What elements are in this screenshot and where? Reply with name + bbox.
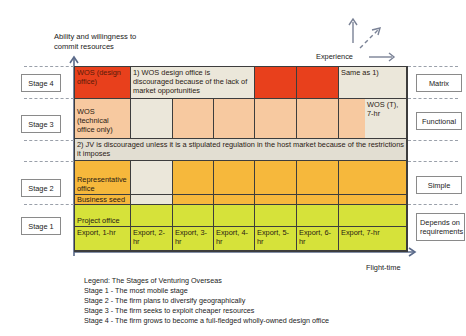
- legend-item: Stage 4 - The firm grows to become a ful…: [84, 316, 329, 326]
- cell-gray: [131, 99, 173, 139]
- cell-gray: [131, 195, 173, 205]
- cell-orange: [297, 161, 339, 195]
- cell-lime: [173, 205, 214, 227]
- cell-lime: [214, 205, 255, 227]
- cell-rep-office: Representative office: [75, 161, 131, 195]
- stage-2-box: Stage 2: [21, 179, 61, 197]
- stage-3-box: Stage 3: [21, 115, 61, 133]
- cell-export-5: Export, 5-hr: [255, 227, 297, 251]
- cell-business-seed: Business seed: [75, 195, 131, 205]
- cell-peach: [255, 99, 297, 139]
- cell-orange: [297, 195, 339, 205]
- cell-lime: [365, 205, 407, 227]
- cell-export-3: Export, 3-hr: [173, 227, 214, 251]
- cell-red: [255, 67, 297, 99]
- type-matrix-box: Matrix: [416, 74, 462, 92]
- cell-gray: [131, 161, 173, 195]
- separator: [24, 140, 74, 141]
- cell-orange: [173, 161, 214, 195]
- separator: [408, 161, 458, 162]
- cell-lime: [255, 205, 297, 227]
- cell-export-1: Export, 1-hr: [75, 227, 131, 251]
- cell-export-2: Export, 2-hr: [131, 227, 173, 251]
- legend-item: Stage 2 - The firm plans to diversify ge…: [84, 296, 329, 306]
- cell-lime: [297, 205, 339, 227]
- experience-arrows-icon: [349, 19, 394, 61]
- stage-1-box: Stage 1: [21, 217, 61, 235]
- separator: [408, 66, 458, 67]
- cell-orange: [365, 161, 407, 195]
- separator: [24, 98, 74, 99]
- cell-orange: [255, 195, 297, 205]
- cell-project-office: Project office: [75, 205, 131, 227]
- legend-item: Stage 1 - The most mobile stage: [84, 286, 329, 296]
- cell-lime: [131, 205, 173, 227]
- separator: [24, 66, 74, 67]
- legend: Legend: The Stages of Venturing Overseas…: [84, 276, 329, 326]
- cell-export-4: Export, 4-hr: [214, 227, 255, 251]
- cell-export-7: Export, 7-hr: [339, 227, 407, 251]
- cell-orange: [173, 195, 214, 205]
- legend-item: Stage 3 - The firm seeks to exploit chea…: [84, 306, 329, 316]
- type-functional-box: Functional: [416, 112, 462, 130]
- stage-4-box: Stage 4: [21, 74, 61, 92]
- separator: [408, 140, 458, 141]
- cell-orange: [255, 161, 297, 195]
- cell-peach: [297, 99, 339, 139]
- separator: [24, 161, 74, 162]
- legend-title: Legend: The Stages of Venturing Overseas: [84, 276, 329, 286]
- cell-peach: [173, 99, 214, 139]
- cell-wos-t: WOS (T), 7-hr: [365, 99, 407, 139]
- cell-orange: [214, 195, 255, 205]
- cell-note-2: 2) JV is discouraged unless it is a stip…: [75, 139, 407, 161]
- cell-wos-design: WOS (design office): [75, 67, 131, 99]
- cell-orange: [365, 195, 407, 205]
- cell-note-1: 1) WOS design office is discouraged beca…: [131, 67, 255, 99]
- separator: [408, 98, 458, 99]
- cell-red: [297, 67, 339, 99]
- type-depends-box: Depends on requirements: [416, 213, 465, 241]
- cell-peach: [214, 99, 255, 139]
- cell-wos-technical: WOS (technical office only): [75, 99, 131, 139]
- cell-same-as: Same as 1): [339, 67, 407, 99]
- stage-grid: WOS (design office) 1) WOS design office…: [74, 66, 408, 252]
- separator: [24, 204, 74, 205]
- separator: [408, 204, 458, 205]
- cell-orange: [214, 161, 255, 195]
- cell-export-6: Export, 6-hr: [297, 227, 339, 251]
- type-simple-box: Simple: [416, 176, 462, 194]
